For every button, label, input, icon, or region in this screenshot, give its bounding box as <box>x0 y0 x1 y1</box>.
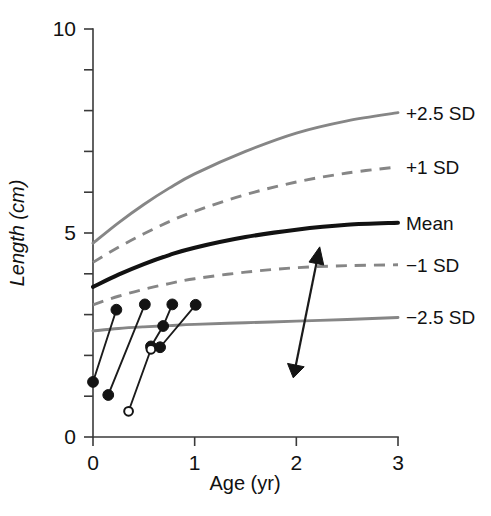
filled-data-point <box>103 390 114 401</box>
patient-segments-group <box>88 299 201 416</box>
curve-labels-group: +2.5 SD+1 SDMean−1 SD−2.5 SD <box>406 103 475 329</box>
filled-data-point <box>190 299 201 310</box>
open-data-point <box>124 407 133 416</box>
curve-label-0: +2.5 SD <box>406 103 475 124</box>
curve-label-3: −1 SD <box>406 255 459 276</box>
filled-data-point <box>139 299 150 310</box>
segment-line-patient-1 <box>93 310 116 382</box>
x-tick-label: 3 <box>392 451 404 474</box>
x-tick-label: 0 <box>87 451 99 474</box>
filled-data-point <box>88 377 99 388</box>
growth-chart-figure: 0510 0123 +2.5 SD+1 SDMean−1 SD−2.5 SD A… <box>0 0 491 516</box>
filled-data-point <box>155 342 166 353</box>
y-axis-title: Length (cm) <box>6 180 28 287</box>
curve-label-1: +1 SD <box>406 157 459 178</box>
x-axis-ticks <box>93 437 398 446</box>
filled-data-point <box>167 299 178 310</box>
arrow-shaft <box>295 256 318 370</box>
x-tick-label: 2 <box>290 451 302 474</box>
y-axis-ticks <box>84 29 93 437</box>
y-axis-tick-labels: 0510 <box>53 17 76 448</box>
open-data-point <box>147 345 156 354</box>
segment-line-patient-4 <box>129 349 151 411</box>
x-axis-tick-labels: 0123 <box>87 451 404 474</box>
curve-label-4: −2.5 SD <box>406 307 475 328</box>
x-axis-title: Age (yr) <box>209 472 280 494</box>
reference-curves-group <box>93 113 398 331</box>
chart-canvas: 0510 0123 +2.5 SD+1 SDMean−1 SD−2.5 SD A… <box>0 0 491 516</box>
x-tick-label: 1 <box>189 451 201 474</box>
arrow-head-icon <box>309 247 324 265</box>
arrow-tail-triangle-icon <box>288 363 305 377</box>
y-tick-label: 0 <box>64 425 76 448</box>
y-tick-label: 5 <box>64 221 76 244</box>
filled-data-point <box>158 321 169 332</box>
curve--1SD <box>93 265 398 305</box>
curve-Mean <box>93 223 398 287</box>
curve-1SD <box>93 167 398 262</box>
curve-label-2: Mean <box>406 213 454 234</box>
filled-data-point <box>111 304 122 315</box>
y-tick-label: 10 <box>53 17 76 40</box>
